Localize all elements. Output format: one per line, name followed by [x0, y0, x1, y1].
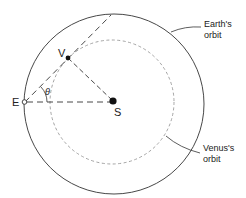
venus-orbit-label-line2: orbit: [203, 154, 221, 164]
earth-orbit-label-line2: orbit: [204, 30, 222, 40]
earth-point-label: E: [12, 96, 19, 108]
angle-label: θ: [45, 87, 50, 97]
sun-point: [109, 97, 116, 104]
line-venus-sun: [68, 58, 113, 101]
venus-orbit-label-line1: Venus's: [203, 143, 235, 153]
venus-point-label: V: [58, 47, 66, 59]
earth-point: [22, 100, 27, 105]
sun-point-label: S: [114, 106, 121, 118]
earth-orbit-leader: [171, 27, 201, 32]
orbit-diagram: E V S θ Earth's orbit Venus's orbit: [0, 0, 246, 198]
earth-orbit-label-line1: Earth's: [204, 19, 232, 29]
venus-point: [66, 56, 71, 61]
venus-orbit-leader: [166, 136, 200, 153]
